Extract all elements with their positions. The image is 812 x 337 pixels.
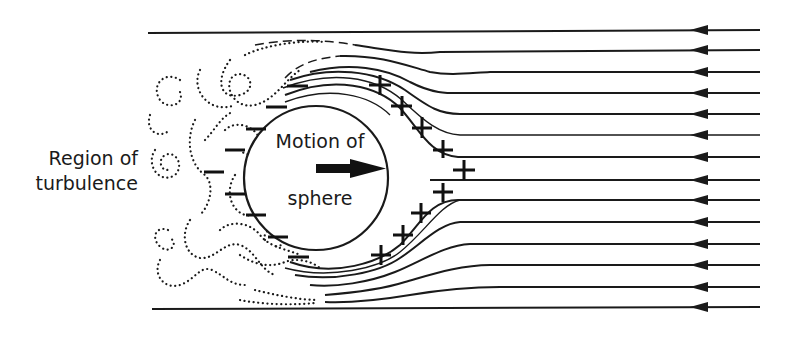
motion-label-line-1: Motion of: [270, 129, 370, 154]
plus-icon: [433, 183, 453, 202]
arrow-icon: [690, 217, 708, 227]
arrow-icon: [690, 152, 708, 162]
plus-icon: [369, 75, 391, 95]
arrow-icon: [690, 302, 708, 312]
motion-label-line-2: sphere: [270, 186, 370, 211]
arrow-icon: [690, 282, 708, 292]
plus-icon: [411, 203, 431, 223]
plus-icon: [412, 117, 432, 138]
arrow-icon: [690, 239, 708, 249]
arrow-icon: [690, 175, 708, 185]
plus-icon: [391, 96, 412, 116]
plus-icon: [453, 160, 475, 180]
arrow-icon: [690, 25, 708, 35]
region-label-line-2: turbulence: [22, 171, 138, 196]
plus-icon: [371, 245, 391, 265]
plus-icon: [393, 225, 413, 245]
arrow-icon: [690, 67, 708, 77]
region-label-line-1: Region of: [22, 146, 138, 171]
airflow-arrows: [690, 25, 708, 312]
arrow-icon: [690, 195, 708, 205]
arrow-icon: [690, 45, 708, 55]
arrow-icon: [690, 109, 708, 119]
arrow-icon: [690, 130, 708, 140]
region-of-turbulence-label: Region of turbulence: [22, 146, 138, 196]
arrow-icon: [690, 88, 708, 98]
arrow-icon: [690, 260, 708, 270]
